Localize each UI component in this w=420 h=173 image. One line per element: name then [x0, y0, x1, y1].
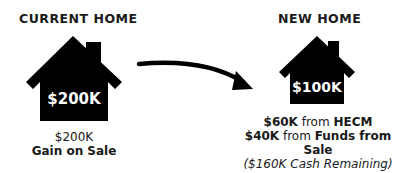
new-house-value: $100K [292, 79, 343, 95]
gain-label: Gain on Sale [24, 144, 124, 158]
current-house-icon: $200K [26, 36, 122, 121]
current-home-caption: $200K Gain on Sale [24, 130, 124, 158]
curved-arrow-icon [139, 63, 253, 90]
new-home-caption: $60K from HECM $40K from Funds from Sale… [238, 115, 398, 171]
current-house-value: $200K [47, 90, 102, 108]
cash-remaining-note: ($160K Cash Remaining) [238, 157, 398, 171]
new-house-icon: $100K [279, 36, 355, 104]
funding-line-hecm: $60K from HECM [238, 115, 398, 129]
funding-line-sale: $40K from Funds from Sale [238, 129, 398, 157]
gain-amount: $200K [24, 130, 124, 144]
